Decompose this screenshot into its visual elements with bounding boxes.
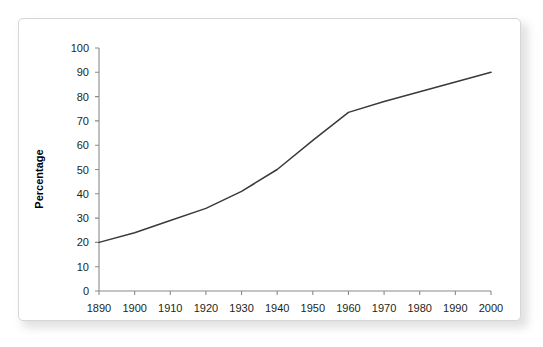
x-tick-label: 1900 bbox=[122, 302, 146, 314]
x-tick-label: 1930 bbox=[229, 302, 253, 314]
figure-root: Percentage 0102030405060708090100 189019… bbox=[0, 0, 543, 347]
x-tick-label: 2000 bbox=[479, 302, 503, 314]
y-tick-label: 20 bbox=[77, 236, 89, 248]
x-tick-label: 1950 bbox=[301, 302, 325, 314]
y-tick-label: 50 bbox=[77, 164, 89, 176]
y-tick-label: 0 bbox=[83, 285, 89, 297]
x-tick-label: 1920 bbox=[194, 302, 218, 314]
y-tick-label: 30 bbox=[77, 212, 89, 224]
line-chart: Percentage 0102030405060708090100 189019… bbox=[19, 19, 521, 321]
x-tick-label: 1940 bbox=[265, 302, 289, 314]
x-tick-label: 1970 bbox=[372, 302, 396, 314]
x-tick-label: 1960 bbox=[336, 302, 360, 314]
chart-card: Percentage 0102030405060708090100 189019… bbox=[18, 18, 521, 321]
y-tick-label: 100 bbox=[71, 42, 89, 54]
y-tick-label: 10 bbox=[77, 261, 89, 273]
x-tick-label: 1890 bbox=[87, 302, 111, 314]
y-tick-label: 90 bbox=[77, 66, 89, 78]
y-tick-label: 60 bbox=[77, 139, 89, 151]
series-line-percentage bbox=[99, 72, 491, 242]
x-tick-label: 1910 bbox=[158, 302, 182, 314]
x-axis-tick-marks bbox=[99, 291, 491, 295]
y-tick-label: 40 bbox=[77, 188, 89, 200]
y-tick-label: 80 bbox=[77, 91, 89, 103]
y-axis-tick-marks bbox=[95, 48, 99, 291]
x-axis-tick-labels: 1890190019101920193019401950196019701980… bbox=[87, 302, 503, 314]
y-axis-title: Percentage bbox=[33, 149, 45, 208]
x-tick-label: 1990 bbox=[443, 302, 467, 314]
y-tick-label: 70 bbox=[77, 115, 89, 127]
y-axis-tick-labels: 0102030405060708090100 bbox=[71, 42, 89, 297]
x-tick-label: 1980 bbox=[407, 302, 431, 314]
